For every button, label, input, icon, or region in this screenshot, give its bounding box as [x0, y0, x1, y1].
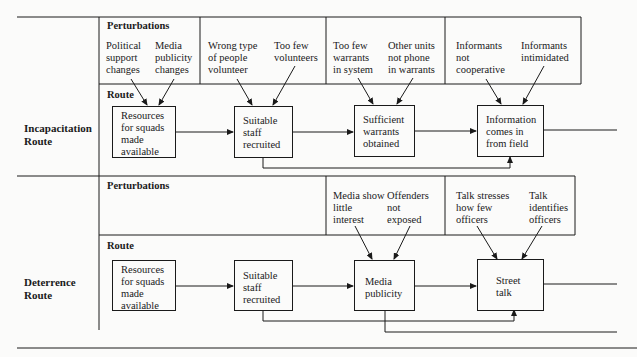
deter-perturbations-heading: Perturbations: [107, 180, 169, 192]
perturbation-wrong-type: Wrong type of people volunteer: [208, 40, 257, 76]
incap-route-heading: Route: [107, 89, 134, 101]
incap-perturbations-heading: Perturbations: [107, 20, 169, 32]
step-sufficient-warrants: Sufficient warrants obtained: [354, 105, 415, 157]
step-resources-deterrence: Resources for squads made available: [112, 260, 176, 311]
perturbation-other-units: Other units not phone in warrants: [388, 40, 435, 76]
perturbation-informants-not-cooperative: Informants not cooperative: [456, 40, 505, 76]
step-information: Information comes in from field: [477, 105, 544, 157]
step-street-talk: Street talk: [477, 259, 544, 311]
step-resources: Resources for squads made available: [112, 106, 176, 158]
perturbation-political-support: Political support changes: [106, 40, 141, 76]
perturbation-media-publicity: Media publicity changes: [155, 40, 192, 76]
step-media-publicity: Media publicity: [354, 260, 415, 311]
perturbation-too-few-volunteers: Too few volunteers: [274, 40, 318, 64]
step-suitable-staff-deterrence: Suitable staff recruited: [234, 260, 293, 311]
perturbation-informants-intimidated: Informants intimidated: [521, 40, 569, 64]
incapacitation-route-label: Incapacitation Route: [24, 122, 92, 148]
step-suitable-staff: Suitable staff recruited: [234, 106, 293, 158]
perturbation-offenders-not-exposed: Offenders not exposed: [387, 190, 429, 226]
perturbation-media-little-interest: Media show little interest: [333, 190, 385, 226]
perturbation-talk-stresses: Talk stresses how few officers: [456, 190, 509, 226]
deter-route-heading: Route: [107, 240, 134, 252]
perturbation-too-few-warrants: Too few warrants in system: [333, 40, 373, 76]
deterrence-route-label: Deterrence Route: [24, 276, 76, 302]
perturbation-talk-identifies: Talk identifies officers: [529, 190, 568, 226]
